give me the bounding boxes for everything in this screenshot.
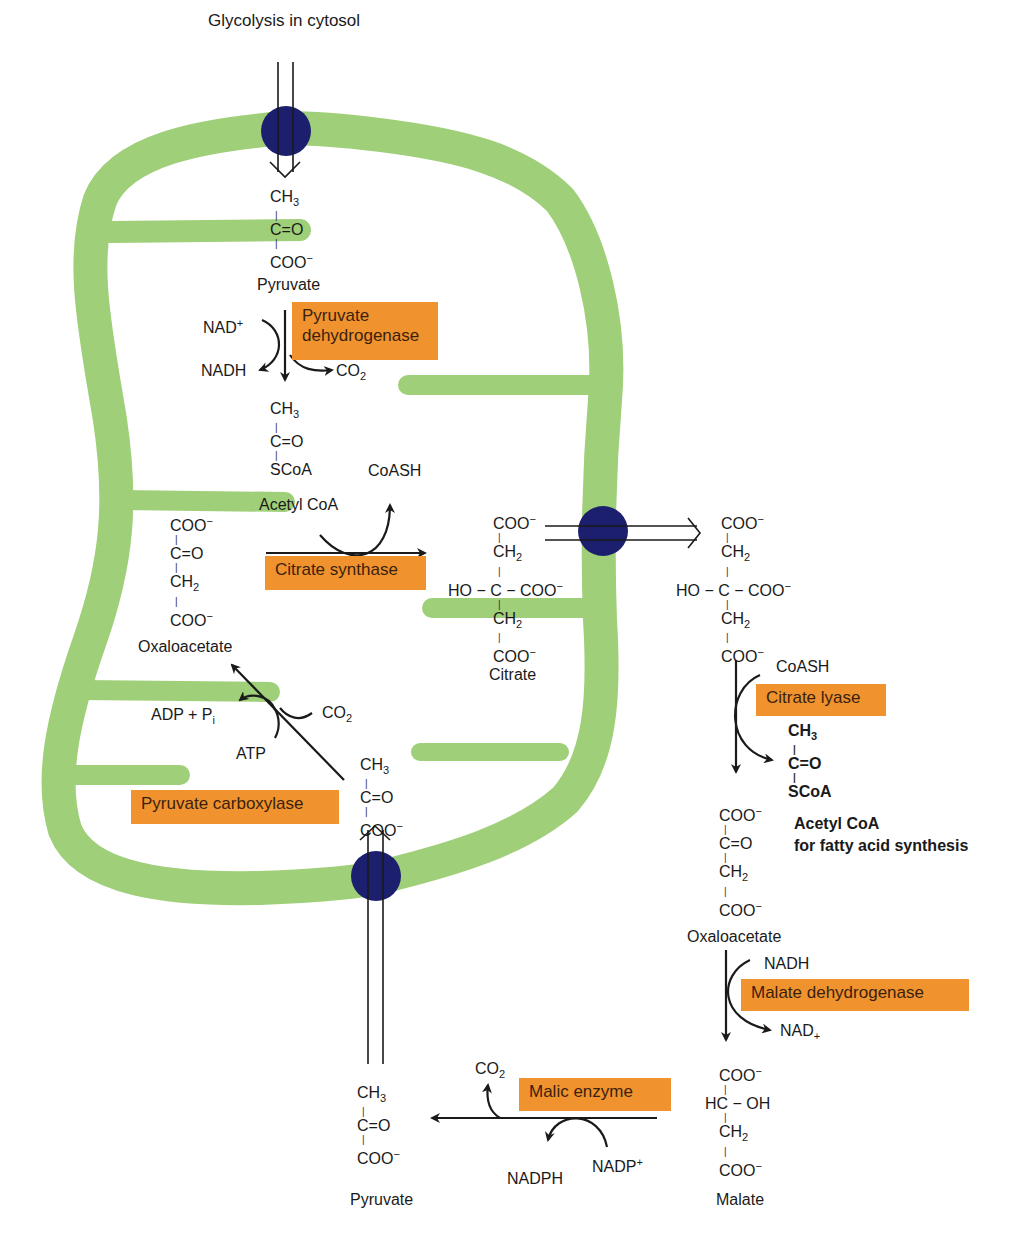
- enzyme-pyruvate-carboxylase: Pyruvate carboxylase: [131, 790, 339, 824]
- label-malate-cyto: Malate: [716, 1191, 764, 1209]
- citrate-transporter: [578, 506, 628, 556]
- label-for-fatty-acid-synthesis: for fatty acid synthesis: [794, 837, 968, 855]
- cofactor-nadh-mdh: NADH: [764, 955, 809, 973]
- cofactor-coash-cs: CoASH: [368, 462, 421, 480]
- molecule-pyruvate-cyto: CH3 | C=O | COO−: [357, 1082, 400, 1171]
- pyruvate-transporter-top: [261, 106, 311, 156]
- molecule-malate-cyto: COO− | HC − OH | CH2 | COO−: [719, 1060, 770, 1182]
- enzyme-pyruvate-dehydrogenase: Pyruvate dehydrogenase: [292, 302, 438, 360]
- molecule-pyruvate-mito-bottom: CH3 | C=O | COO−: [360, 754, 403, 843]
- label-acetyl-coa-mito: Acetyl CoA: [259, 496, 338, 514]
- enzyme-malic-enzyme: Malic enzyme: [519, 1078, 671, 1111]
- cofactor-co2-malic: CO2: [475, 1060, 505, 1083]
- cofactor-nadp-plus: NADP+: [592, 1153, 643, 1176]
- molecule-oxaloacetate-mito: COO− | C=O | CH2 | COO−: [170, 510, 213, 632]
- molecule-citrate-cyto: COO− | CH2 | HO − C − COO− | CH2 | COO−: [703, 508, 791, 668]
- label-acetyl-coa-cyto: Acetyl CoA: [794, 815, 879, 833]
- cofactor-adp-pi: ADP + Pi: [151, 706, 215, 729]
- label-pyruvate-cyto: Pyruvate: [350, 1191, 413, 1209]
- molecule-acetyl-coa-mito: CH3 | C=O | SCoA: [270, 398, 312, 481]
- label-oxaloacetate-cyto: Oxaloacetate: [687, 928, 781, 946]
- cofactor-coash-lyase: CoASH: [776, 658, 829, 676]
- cofactor-nadh-pdh: NADH: [201, 362, 246, 380]
- enzyme-malate-dehydrogenase: Malate dehydrogenase: [741, 979, 969, 1011]
- cofactor-nad-mdh: NAD+: [780, 1022, 820, 1045]
- molecule-oxaloacetate-cyto: COO− | C=O | CH2 | COO−: [719, 800, 762, 922]
- enzyme-citrate-lyase: Citrate lyase: [756, 684, 886, 716]
- pyruvate-transporter-bottom: [351, 851, 401, 901]
- label-citrate-mito: Citrate: [489, 666, 536, 684]
- title-glycolysis-in-cytosol: Glycolysis in cytosol: [208, 12, 360, 30]
- cofactor-co2-pdh: CO2: [336, 362, 366, 385]
- molecule-pyruvate-top: CH3 | C=O | COO−: [270, 186, 313, 275]
- molecule-citrate-mito: COO− | CH2 | HO − C − COO− | CH2 | COO−: [448, 508, 563, 668]
- cofactor-nadph: NADPH: [507, 1170, 563, 1188]
- cofactor-atp: ATP: [236, 745, 266, 763]
- enzyme-citrate-synthase: Citrate synthase: [265, 556, 426, 590]
- label-pyruvate-top: Pyruvate: [257, 276, 320, 294]
- molecule-acetyl-coa-cyto: CH3 | C=O | SCoA: [788, 720, 832, 803]
- label-oxaloacetate-mito: Oxaloacetate: [138, 638, 232, 656]
- cofactor-nad-plus: NAD+: [203, 314, 243, 337]
- cofactor-co2-pc: CO2: [322, 704, 352, 727]
